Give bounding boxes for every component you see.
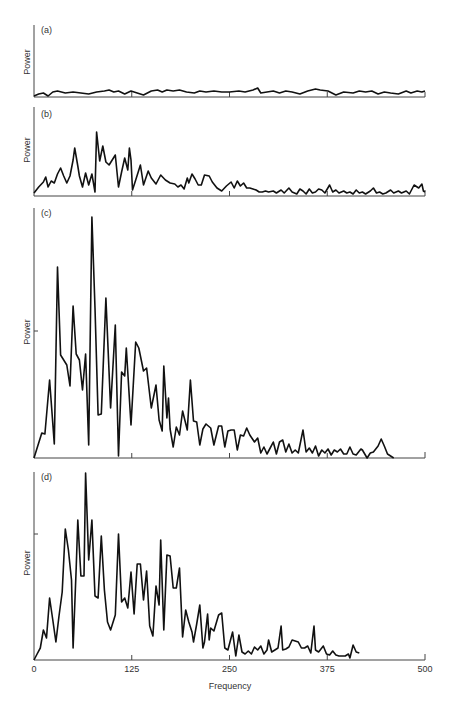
x-tick-label: 375 bbox=[320, 664, 335, 674]
spectral-power-figure: (a) Power (b) Power (c) Power (d) Power … bbox=[0, 0, 451, 703]
panel-b-ylabel: Power bbox=[22, 137, 32, 163]
panel-d-ylabel: Power bbox=[22, 550, 32, 576]
panel-b: (b) Power bbox=[22, 107, 425, 196]
panel-a-label: (a) bbox=[41, 25, 52, 35]
x-tick-label: 125 bbox=[124, 664, 139, 674]
panel-a: (a) Power bbox=[22, 25, 425, 97]
panel-d-axes bbox=[34, 472, 425, 660]
panel-c: (c) Power bbox=[22, 208, 425, 458]
panel-a-ylabel: Power bbox=[22, 49, 32, 75]
panel-a-axes bbox=[34, 25, 425, 97]
x-tick-label: 250 bbox=[222, 664, 237, 674]
x-tick-label: 0 bbox=[31, 664, 36, 674]
panel-d-label: (d) bbox=[41, 472, 52, 482]
x-tick-labels: 0125250375500 bbox=[31, 664, 432, 674]
panel-c-xticks bbox=[132, 453, 328, 458]
panel-c-label: (c) bbox=[41, 208, 52, 218]
panel-b-trace bbox=[34, 132, 425, 194]
panel-d: (d) Power 0125250375500 Frequency bbox=[22, 472, 433, 691]
panel-c-ylabel: Power bbox=[22, 319, 32, 345]
panel-c-trace bbox=[34, 217, 394, 458]
panel-d-xticks bbox=[132, 655, 328, 660]
x-tick-label: 500 bbox=[417, 664, 432, 674]
panel-d-trace bbox=[34, 473, 359, 660]
panel-b-label: (b) bbox=[41, 109, 52, 119]
x-axis-label: Frequency bbox=[209, 681, 252, 691]
